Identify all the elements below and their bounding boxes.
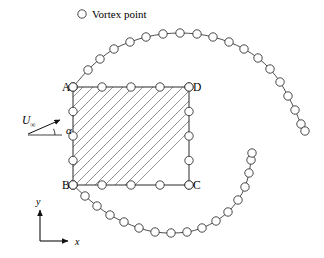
freestream-symbol-subscript: ∞ <box>30 120 35 129</box>
vortex-point-bottom-edge <box>156 181 164 189</box>
vortex-point-lower-vortex-sheet <box>93 202 101 210</box>
corner-label-a: A <box>62 81 71 93</box>
hatch-line <box>0 87 73 185</box>
freestream-group: U∞ α <box>22 114 72 136</box>
vortex-point-upper-vortex-sheet <box>110 45 118 53</box>
vortex-point-lower-vortex-sheet <box>212 217 220 225</box>
corner-label-c: C <box>193 179 201 191</box>
vortex-point-group <box>69 29 309 237</box>
vortex-point-lower-vortex-sheet <box>69 181 77 189</box>
vortex-point-lower-vortex-sheet <box>106 211 114 219</box>
x-axis-label: x <box>74 236 80 247</box>
hatch-line <box>15 87 113 185</box>
body-outline <box>73 87 189 185</box>
corner-label-b: B <box>62 179 70 191</box>
lower-vortex-sheet <box>73 153 252 233</box>
vortex-point-right-edge <box>185 156 193 164</box>
angle-arc-icon <box>54 129 56 135</box>
vortex-point-upper-vortex-sheet <box>193 30 201 38</box>
freestream-symbol: U∞ <box>22 114 36 129</box>
hatch-line <box>0 87 63 185</box>
hatch-line <box>135 87 233 185</box>
vortex-point-upper-vortex-sheet <box>254 54 262 62</box>
vortex-point-upper-vortex-sheet <box>84 66 92 74</box>
vortex-point-upper-vortex-sheet <box>291 106 299 114</box>
hatch-line <box>95 87 193 185</box>
hatch-line <box>5 87 103 185</box>
vortex-point-lower-vortex-sheet <box>224 208 232 216</box>
legend-label: Vortex point <box>92 8 147 20</box>
vortex-point-upper-vortex-sheet <box>225 38 233 46</box>
vortex-point-right-edge <box>185 181 193 189</box>
vortex-point-lower-vortex-sheet <box>81 192 89 200</box>
vortex-point-upper-vortex-sheet <box>301 127 309 135</box>
vortex-point-marker-icon <box>78 10 86 18</box>
hatch-line <box>65 87 163 185</box>
vortex-point-upper-vortex-sheet <box>126 38 134 46</box>
hatch-line <box>0 87 93 185</box>
vortex-point-lower-vortex-sheet <box>183 228 191 236</box>
vortex-point-left-edge <box>69 107 77 115</box>
vortex-point-lower-vortex-sheet <box>245 169 253 177</box>
body-hatching <box>0 87 233 185</box>
vortex-point-right-edge <box>185 83 193 91</box>
vortex-point-upper-vortex-sheet <box>240 45 248 53</box>
angle-of-attack-label: α <box>66 124 72 136</box>
hatch-line <box>0 87 53 185</box>
vortex-point-lower-vortex-sheet <box>234 196 242 204</box>
y-axis-label: y <box>35 196 41 207</box>
vortex-point-upper-vortex-sheet <box>276 78 284 86</box>
vortex-point-lower-vortex-sheet <box>135 224 143 232</box>
vortex-point-left-edge <box>69 156 77 164</box>
vortex-point-upper-vortex-sheet <box>142 33 150 41</box>
vortex-panel-figure: ADBC Vortex point U∞ α x y <box>0 0 324 258</box>
vortex-point-right-edge <box>185 107 193 115</box>
vortex-point-lower-vortex-sheet <box>198 224 206 232</box>
vortex-point-lower-vortex-sheet <box>241 183 249 191</box>
vortex-point-top-edge <box>156 83 164 91</box>
vortex-point-top-edge <box>98 83 106 91</box>
coordinate-axes: x y <box>35 196 80 247</box>
vortex-point-bottom-edge <box>98 181 106 189</box>
vortex-point-right-edge <box>185 132 193 140</box>
legend: Vortex point <box>78 8 147 20</box>
hatch-line <box>125 87 223 185</box>
hatch-line <box>115 87 213 185</box>
vortex-point-upper-vortex-sheet <box>284 92 292 100</box>
vortex-point-lower-vortex-sheet <box>151 228 159 236</box>
vortex-point-bottom-edge <box>127 181 135 189</box>
hatch-line <box>85 87 183 185</box>
vortex-point-lower-vortex-sheet <box>120 218 128 226</box>
vortex-point-top-edge <box>127 83 135 91</box>
hatch-line <box>35 87 133 185</box>
hatch-line <box>75 87 173 185</box>
vortex-point-upper-vortex-sheet <box>266 65 274 73</box>
corner-label-d: D <box>193 81 201 93</box>
vortex-point-lower-vortex-sheet <box>248 149 256 157</box>
vortex-point-upper-vortex-sheet <box>96 55 104 63</box>
vortex-point-upper-vortex-sheet <box>176 29 184 37</box>
vortex-point-lower-vortex-sheet <box>167 229 175 237</box>
vortex-point-upper-vortex-sheet <box>159 30 167 38</box>
hatch-line <box>45 87 143 185</box>
vortex-point-upper-vortex-sheet <box>209 33 217 41</box>
